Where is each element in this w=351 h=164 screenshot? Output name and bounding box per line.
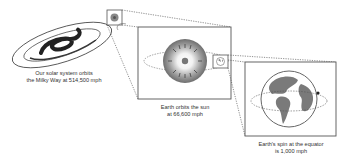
caption-milky-way: Our solar system orbits the Milky Way at… [14, 70, 114, 84]
caption-sun-orbit: Earth orbits the sun at 66,600 mph [140, 104, 230, 118]
speed-diagram: Our solar system orbits the Milky Way at… [0, 0, 351, 164]
galaxy-icon [7, 13, 116, 77]
sun-icon [163, 39, 207, 83]
earth-globe-icon [261, 71, 317, 127]
caption-earth-spin: Earth's spin at the equator is 1,000 mph [245, 141, 337, 155]
